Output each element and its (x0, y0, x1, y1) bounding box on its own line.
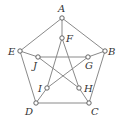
edge-e-j (20, 51, 38, 57)
vertex-i (45, 86, 49, 90)
vertex-label-j: J (31, 60, 38, 71)
vertex-label-f: F (65, 33, 74, 44)
vertex-g (86, 55, 90, 59)
edge-i-f (47, 38, 62, 88)
vertex-label-d: D (24, 106, 33, 117)
vertex-label-b: B (107, 46, 115, 57)
graph-nodes (18, 16, 107, 105)
vertex-c (87, 101, 91, 105)
vertex-a (60, 16, 64, 20)
edge-b-g (88, 51, 105, 57)
edge-e-a (20, 18, 62, 51)
vertex-label-i: I (37, 83, 43, 94)
petersen-graph-diagram: ABCDEFGHIJ (0, 0, 120, 122)
vertex-label-g: G (85, 60, 93, 71)
vertex-f (60, 36, 64, 40)
vertex-label-a: A (57, 3, 65, 14)
edge-b-c (89, 51, 105, 103)
vertex-label-c: C (91, 106, 99, 117)
vertex-label-e: E (7, 46, 16, 57)
vertex-b (103, 49, 107, 53)
edge-h-j (38, 57, 79, 88)
vertex-label-h: H (83, 83, 93, 94)
edge-g-i (47, 57, 88, 88)
edge-f-h (62, 38, 79, 88)
vertex-d (34, 101, 38, 105)
vertex-h (77, 86, 81, 90)
vertex-j (36, 55, 40, 59)
edge-d-e (20, 51, 36, 103)
vertex-e (18, 49, 22, 53)
